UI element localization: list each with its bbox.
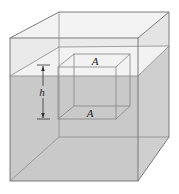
bottom-face-area-label: A [87, 108, 94, 119]
fluid-container-diagram: A A h [0, 0, 179, 194]
top-face-area-label: A [92, 56, 99, 67]
diagram-canvas [0, 0, 179, 194]
depth-label: h [39, 87, 45, 98]
